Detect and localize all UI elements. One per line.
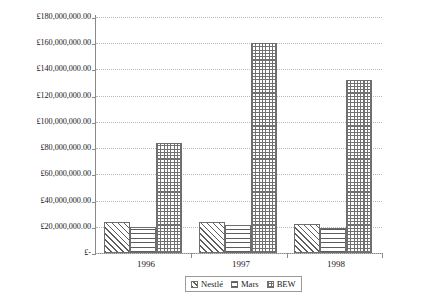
x-axis-label-1996: 1996 [100, 259, 192, 270]
bar-1996-mars[interactable] [130, 227, 156, 253]
legend-label-nestle: Nestlé [201, 280, 223, 289]
gridline-zero [96, 253, 382, 254]
bar-1998-nestle[interactable] [294, 224, 320, 253]
y-axis-tick-label: £60,000,000.00 [41, 170, 91, 178]
legend-swatch-mars-icon [231, 281, 238, 288]
x-axis-label-1998: 1998 [290, 259, 382, 270]
x-axis-tick [191, 253, 192, 258]
legend-label-bew: BEW [277, 280, 296, 289]
bar-chart: £180,000,000.00 £160,000,000.00 £140,000… [0, 0, 421, 303]
legend-label-mars: Mars [241, 280, 259, 289]
bar-1997-bew[interactable] [251, 43, 277, 253]
y-axis-tick-label: £40,000,000.00 [41, 197, 91, 205]
bar-1998-bew[interactable] [346, 80, 372, 253]
y-axis-tick-label: £120,000,000.00 [36, 92, 91, 100]
bar-1998-mars[interactable] [320, 228, 346, 253]
bar-group-1997 [195, 17, 287, 253]
y-axis-tick-label: £20,000,000.00 [41, 223, 91, 231]
y-axis-tick-label: £- [84, 249, 91, 257]
chart-legend: Nestlé Mars BEW [185, 276, 302, 292]
bar-1996-nestle[interactable] [104, 222, 130, 254]
y-axis-tick-label: £100,000,000.00 [36, 118, 91, 126]
legend-item-mars[interactable]: Mars [231, 280, 259, 289]
bar-1997-nestle[interactable] [199, 222, 225, 254]
legend-swatch-bew-icon [267, 281, 274, 288]
legend-item-nestle[interactable]: Nestlé [191, 280, 223, 289]
y-axis-tick-label: £180,000,000.00 [36, 13, 91, 21]
x-axis-tick [287, 253, 288, 258]
legend-item-bew[interactable]: BEW [267, 280, 296, 289]
bar-1996-bew[interactable] [156, 143, 182, 253]
y-axis-tick-label: £80,000,000.00 [41, 144, 91, 152]
y-axis-tick-label: £160,000,000.00 [36, 39, 91, 47]
bar-group-1998 [290, 17, 382, 253]
y-axis-label-column: £180,000,000.00 £160,000,000.00 £140,000… [0, 0, 91, 303]
x-axis-label-1997: 1997 [195, 259, 287, 270]
legend-swatch-nestle-icon [191, 281, 198, 288]
x-axis-tick [382, 253, 383, 258]
bar-group-1996 [100, 17, 192, 253]
bar-1997-mars[interactable] [225, 225, 251, 253]
y-axis-tick-label: £140,000,000.00 [36, 65, 91, 73]
plot-area [96, 17, 382, 253]
